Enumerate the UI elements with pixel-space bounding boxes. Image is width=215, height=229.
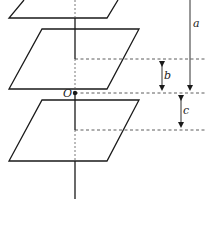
origin-label: O [63,87,72,100]
dimension-c-label: c [183,104,189,117]
dimension-a-label: a [193,17,200,30]
bottom-plane [9,100,139,161]
top-plane [9,0,118,18]
dimension-b: b [162,64,171,88]
dimension-b-label: b [164,69,171,82]
plane-stack-diagram: O a b c [0,0,215,229]
dimension-a: a [190,0,200,88]
dimension-c: c [181,98,189,125]
